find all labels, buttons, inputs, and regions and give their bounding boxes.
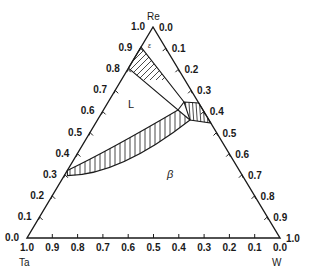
phase-label-beta: β [166, 168, 174, 180]
bottom-tick-label: 0.4 [172, 242, 186, 253]
phase-label-epsilon: ε [148, 42, 152, 49]
left-tick-label: 0.8 [106, 63, 120, 74]
bottom-tick-label: 0.1 [248, 242, 262, 253]
bottom-tick-label: 0.7 [96, 242, 110, 253]
bottom-tick-label: 0.2 [222, 242, 236, 253]
left-tick-label: 0.6 [81, 105, 95, 116]
upper-band-outline [128, 47, 184, 110]
right-tick-label: 0.6 [235, 149, 249, 160]
bottom-tick-label: 0.0 [273, 242, 287, 253]
lower-band-outline [67, 110, 190, 176]
phase-label-l: L [128, 98, 134, 110]
vertex-label-ta: Ta [19, 257, 30, 268]
left-tick-label: 0.9 [118, 42, 132, 53]
left-tick-label: 0.7 [93, 84, 107, 95]
vertex-label-w: W [272, 257, 282, 268]
left-tick-label: 0.3 [43, 169, 57, 180]
right-tick-label: 0.4 [210, 106, 224, 117]
triangle-outline [27, 27, 280, 238]
vertex-label-re: Re [147, 11, 160, 22]
left-tick-label: 0.4 [55, 148, 69, 159]
right-tick-label: 0.1 [172, 43, 186, 54]
right-tick-label: 0.5 [223, 128, 237, 139]
right-tick-label: 1.0 [286, 233, 300, 244]
right-tick-label: 0.9 [273, 212, 287, 223]
bottom-tick-label: 1.0 [20, 242, 34, 253]
left-tick-label: 0.0 [5, 232, 19, 243]
tick-labels: 0.00.01.00.10.10.90.20.20.80.30.30.70.40… [5, 21, 300, 253]
right-tick-label: 0.2 [184, 64, 198, 75]
right-tick-label: 0.7 [248, 170, 262, 181]
left-tick-label: 0.1 [18, 211, 32, 222]
bottom-tick-label: 0.8 [71, 242, 85, 253]
right-tick-label: 0.8 [261, 191, 275, 202]
left-tick-label: 0.2 [30, 190, 44, 201]
left-tick-label: 1.0 [131, 21, 145, 32]
left-tick-label: 0.5 [68, 127, 82, 138]
bottom-tick-label: 0.5 [147, 242, 161, 253]
right-tick-label: 0.0 [159, 22, 173, 33]
right-tick-label: 0.3 [197, 85, 211, 96]
bottom-tick-label: 0.3 [197, 242, 211, 253]
bottom-tick-label: 0.6 [121, 242, 135, 253]
ternary-phase-diagram: 0.00.01.00.10.10.90.20.20.80.30.30.70.40… [0, 0, 309, 273]
bottom-tick-label: 0.9 [45, 242, 59, 253]
